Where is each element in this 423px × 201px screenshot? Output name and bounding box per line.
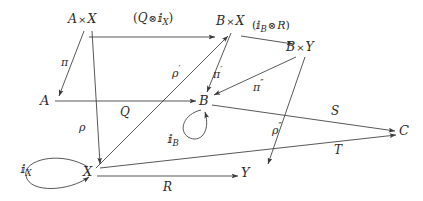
object-B: B xyxy=(199,94,209,107)
label-identity-B: ⅈB xyxy=(168,133,179,148)
object-B-times-X: B×X xyxy=(216,15,244,28)
label-identity-X: ⅈX xyxy=(21,163,32,178)
label-Q: Q xyxy=(120,106,130,118)
object-C: C xyxy=(399,124,409,137)
commutative-diagram: A×X B×X B×Y A B C X Y (Q⊗ⅈX) (ⅈB⊗R) π ρ … xyxy=(0,0,423,201)
object-B-times-Y: B×Y xyxy=(286,41,314,54)
label-pi-prime: π′ xyxy=(213,66,222,80)
label-identity-B-tensor-R: (ⅈB⊗R) xyxy=(252,20,290,34)
label-rho: ρ xyxy=(79,122,85,133)
label-pi-double-prime: π″ xyxy=(253,79,264,93)
label-Q-tensor-identity-X: (Q⊗ⅈX) xyxy=(133,12,173,27)
edge-identity-X xyxy=(26,158,89,188)
label-R: R xyxy=(163,181,172,193)
label-S: S xyxy=(331,105,339,117)
label-T: T xyxy=(334,144,342,156)
object-X: X xyxy=(83,165,92,178)
edge-rho-double-prime xyxy=(268,57,305,164)
label-rho-prime: ρ′ xyxy=(172,65,181,79)
label-rho-double-prime: ρ″ xyxy=(272,122,282,136)
object-A-times-X: A×X xyxy=(68,13,96,26)
edge-T xyxy=(100,135,396,168)
edge-S xyxy=(212,105,395,131)
diagram-edges xyxy=(0,0,423,201)
edge-rho xyxy=(92,31,100,164)
object-A: A xyxy=(40,94,49,107)
label-pi: π xyxy=(61,57,68,68)
edge-pi-prime xyxy=(207,33,231,92)
object-Y: Y xyxy=(241,166,250,179)
edge-identity-B xyxy=(183,110,207,139)
